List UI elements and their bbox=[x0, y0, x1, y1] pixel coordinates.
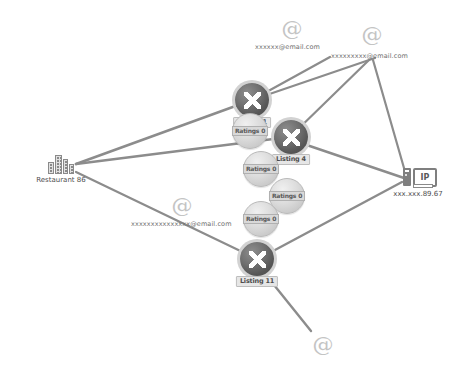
edge-restaurant-listing1 bbox=[76, 100, 252, 164]
at-sign-icon: @ bbox=[310, 332, 336, 358]
ratings-d-label: Ratings 0 bbox=[243, 214, 279, 224]
ip-label: xxx.xxx.89.67 bbox=[393, 190, 442, 198]
ratings-b-label: Ratings 0 bbox=[243, 164, 279, 174]
node-email-3[interactable]: @ bbox=[169, 193, 195, 219]
node-email-2[interactable]: @ bbox=[359, 22, 385, 48]
at-sign-icon: @ bbox=[279, 16, 305, 42]
node-ratings-a[interactable]: Ratings 0 bbox=[232, 113, 268, 149]
link-analysis-canvas: Restaurant 86 IP xxx.xxx.89.67 Listing 1… bbox=[0, 0, 454, 382]
ratings-bubble: Ratings 0 bbox=[243, 201, 279, 237]
node-ip-address[interactable]: IP xxx.xxx.89.67 bbox=[403, 168, 433, 188]
node-listing-4[interactable]: Listing 4 bbox=[274, 120, 308, 154]
node-ratings-d[interactable]: Ratings 0 bbox=[243, 201, 279, 237]
email-1-label: xxxxxx@email.com bbox=[255, 43, 320, 51]
ratings-bubble: Ratings 0 bbox=[232, 113, 268, 149]
node-email-4[interactable]: @ bbox=[310, 332, 336, 358]
building-icon bbox=[48, 152, 74, 174]
node-listing-11[interactable]: Listing 11 bbox=[240, 242, 274, 276]
edge-email2-ip bbox=[373, 60, 406, 175]
at-sign-icon: @ bbox=[169, 193, 195, 219]
email-2-label: xxxxxxxxx@email.com bbox=[331, 52, 408, 60]
edge-listing1-email2 bbox=[252, 58, 375, 100]
x-mark-icon bbox=[240, 242, 274, 276]
x-mark-icon bbox=[235, 83, 269, 117]
ratings-c-label: Ratings 0 bbox=[269, 191, 305, 201]
ratings-a-label: Ratings 0 bbox=[232, 126, 268, 136]
node-listing-1[interactable]: Listing 1 bbox=[235, 83, 269, 117]
at-sign-icon: @ bbox=[359, 22, 385, 48]
ip-server-icon: IP bbox=[403, 168, 433, 188]
node-restaurant[interactable]: Restaurant 86 bbox=[48, 152, 74, 174]
listing-11-label: Listing 11 bbox=[236, 276, 278, 287]
x-mark-icon bbox=[274, 120, 308, 154]
email-3-label: xxxxxxxxxxxxxxx@email.com bbox=[131, 220, 232, 228]
node-email-1[interactable]: @ bbox=[279, 16, 305, 42]
restaurant-label: Restaurant 86 bbox=[36, 176, 85, 184]
edge-restaurant-listing11 bbox=[76, 172, 255, 258]
